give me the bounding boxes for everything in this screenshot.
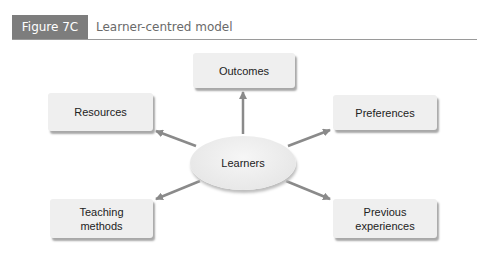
arrow-to-teaching-methods [156, 181, 200, 199]
node-resources: Resources [48, 93, 153, 131]
node-teaching-methods-label: Teaching methods [68, 205, 135, 233]
node-learners: Learners [190, 136, 296, 190]
arrow-to-previous-experiences [286, 181, 330, 199]
arrow-to-resources [156, 131, 196, 146]
arrow-to-preferences [288, 130, 330, 146]
node-preferences-label: Preferences [355, 106, 414, 120]
node-outcomes-label: Outcomes [219, 64, 269, 78]
node-previous-experiences: Previous experiences [333, 199, 437, 238]
node-teaching-methods: Teaching methods [50, 199, 153, 238]
node-outcomes: Outcomes [193, 53, 295, 88]
node-previous-experiences-label: Previous experiences [347, 205, 423, 233]
node-learners-label: Learners [221, 157, 264, 169]
node-preferences: Preferences [333, 95, 437, 130]
node-resources-label: Resources [74, 105, 127, 119]
